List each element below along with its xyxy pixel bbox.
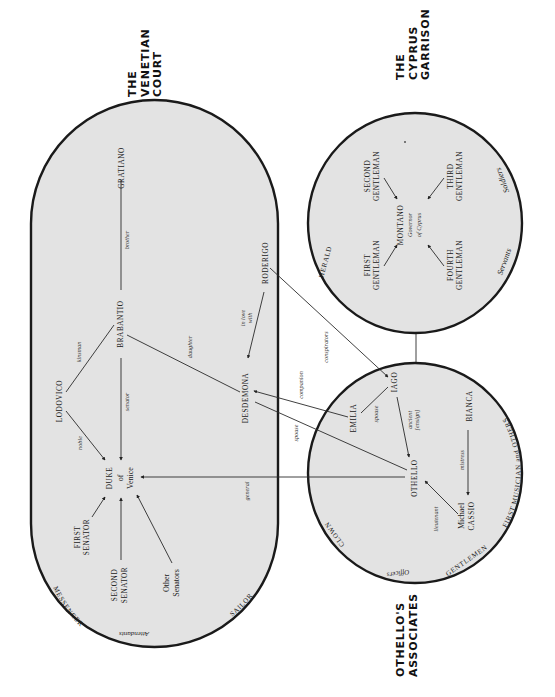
char-othello: OTHELLO [411, 459, 419, 496]
svg-text:with: with [246, 313, 253, 324]
rel-ancient-ensign: ancient [ensign] [406, 409, 420, 431]
minor-attendants: Attendants [119, 630, 150, 638]
svg-text:OTHELLO'S: OTHELLO'S [394, 602, 407, 677]
svg-text:of: of [116, 474, 125, 481]
char-montano: MONTANO [397, 205, 405, 245]
svg-text:THE: THE [126, 70, 139, 97]
svg-text:ancient: ancient [406, 411, 413, 429]
rel-brother: brother [123, 230, 130, 249]
rel-spouse-othello-desdemona: spouse [292, 424, 299, 441]
rel-companion: companion [297, 371, 304, 399]
svg-text:GENTLEMAN: GENTLEMAN [456, 240, 464, 290]
rel-conspirators: conspirators [322, 331, 329, 363]
rel-noble: noble [76, 436, 83, 450]
char-lodovico: LODOVICO [56, 380, 64, 422]
svg-text:CYPRUS: CYPRUS [407, 26, 420, 80]
svg-text:SECOND: SECOND [111, 569, 119, 601]
svg-text:Governor: Governor [406, 212, 413, 237]
title-venetian-court: THE VENETIAN COURT [126, 29, 164, 97]
character-map: THE VENETIAN COURT THE CYPRUS GARRISON O… [0, 0, 555, 697]
char-brabantio: BRABANTIO [117, 300, 125, 347]
svg-text:FIRST: FIRST [364, 254, 372, 277]
dot-mark [404, 141, 406, 143]
svg-text:Michael: Michael [457, 502, 466, 529]
svg-text:Venice: Venice [126, 467, 135, 489]
char-iago: IAGO [391, 372, 399, 392]
svg-text:Other: Other [162, 574, 171, 593]
svg-text:SENATOR: SENATOR [121, 567, 129, 603]
svg-text:SENATOR: SENATOR [83, 519, 91, 555]
svg-text:DUKE: DUKE [106, 467, 114, 489]
svg-text:in love: in love [239, 309, 246, 326]
char-desdemona: DESDEMONA [242, 373, 250, 424]
rel-general: general [243, 481, 250, 500]
rel-spouse-iago-emilia: spouse [372, 405, 379, 422]
char-emilia: EMILIA [350, 403, 358, 432]
char-gratiano: GRATIANO [118, 147, 126, 189]
svg-text:THE: THE [394, 53, 407, 80]
svg-text:of Cyprus: of Cyprus [415, 212, 422, 237]
svg-text:VENETIAN: VENETIAN [139, 29, 152, 97]
title-cyprus-garrison: THE CYPRUS GARRISON [394, 9, 432, 80]
rel-senator: senator [123, 392, 130, 411]
rel-lieutenant: lieutenant [432, 506, 439, 531]
rel-kinsman: kinsman [75, 342, 82, 363]
svg-text:GARRISON: GARRISON [419, 9, 432, 80]
svg-text:SECOND: SECOND [364, 160, 372, 192]
svg-text:GENTLEMAN: GENTLEMAN [373, 240, 381, 290]
svg-text:GENTLEMAN: GENTLEMAN [373, 151, 381, 201]
svg-text:FIRST: FIRST [74, 526, 82, 549]
svg-text:COURT: COURT [151, 51, 164, 97]
svg-text:CASSIO: CASSIO [468, 501, 476, 530]
title-othellos-associates: OTHELLO'S ASSOCIATES [394, 593, 420, 677]
svg-text:ASSOCIATES: ASSOCIATES [407, 593, 420, 677]
rel-mistress: mistress [458, 449, 465, 470]
svg-text:Senators: Senators [172, 569, 181, 597]
rel-daughter: daughter [186, 335, 193, 358]
svg-text:THIRD: THIRD [447, 164, 455, 189]
char-roderigo: RODERIGO [262, 242, 270, 284]
svg-text:[ensign]: [ensign] [413, 409, 420, 431]
svg-text:GENTLEMAN: GENTLEMAN [456, 151, 464, 201]
char-bianca: BIANCA [466, 390, 474, 421]
svg-text:FOURTH: FOURTH [447, 249, 455, 281]
